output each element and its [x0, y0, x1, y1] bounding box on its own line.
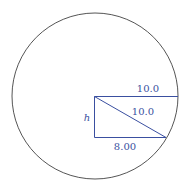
hypotenuse-label: 10.0: [132, 106, 154, 117]
base-label: 8.00: [114, 141, 136, 152]
circle-triangle-diagram: 10.0 10.0 8.00 h: [0, 0, 186, 191]
radius-label: 10.0: [137, 83, 159, 94]
hypotenuse-line: [95, 97, 167, 138]
height-label: h: [84, 112, 90, 123]
